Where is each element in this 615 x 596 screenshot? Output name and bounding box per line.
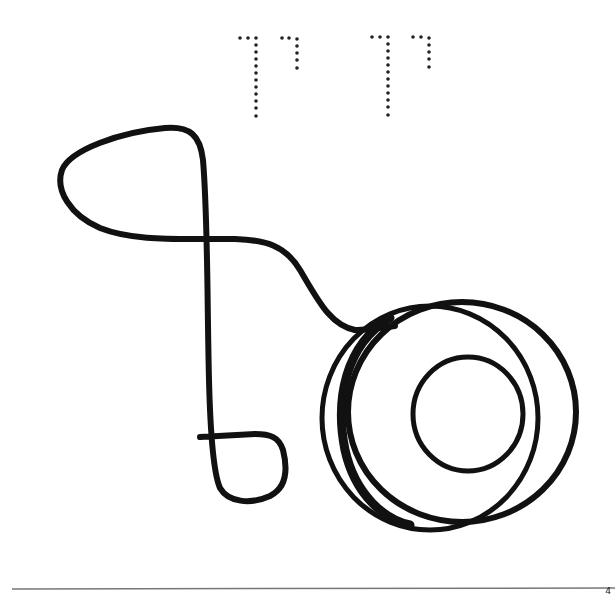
yo-yo-back-rim	[322, 306, 538, 530]
yo-yo-front-face	[348, 302, 576, 522]
dotted-yod-letter	[280, 36, 299, 70]
tracing-letters-group-2	[370, 35, 431, 117]
dotted-final-kaf-letter	[238, 36, 258, 118]
page-bottom-rule	[12, 588, 615, 589]
yo-yo-axle-circle	[413, 357, 523, 471]
dotted-final-kaf-letter	[370, 35, 390, 117]
dotted-yod-letter	[411, 35, 431, 69]
yo-yo-body	[322, 302, 576, 530]
page-number: 4	[605, 586, 611, 596]
tracing-letters-group-1	[238, 36, 299, 118]
